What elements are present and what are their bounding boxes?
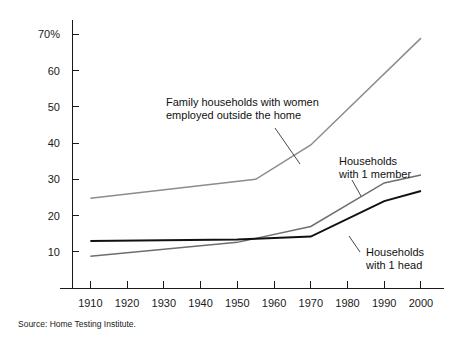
y-tick-label: 60: [48, 65, 60, 77]
series-line: [90, 191, 421, 241]
x-tick-label: 1940: [188, 297, 212, 309]
annotation-one-member: Householdswith 1 member: [338, 155, 411, 180]
y-tick-label: 70%: [38, 28, 60, 40]
x-tick-label: 2000: [409, 297, 433, 309]
annotation-one-head: Householdswith 1 head: [365, 246, 425, 271]
annotation-one-member-leader: [352, 180, 361, 196]
x-axis-ticks: 1910192019301940195019601970198019902000: [78, 281, 433, 309]
y-axis-ticks: 10203040506070%: [38, 28, 79, 257]
line-chart: 10203040506070% 191019201930194019501960…: [0, 0, 472, 341]
x-tick-label: 1950: [225, 297, 249, 309]
chart-canvas: 10203040506070% 191019201930194019501960…: [0, 0, 472, 341]
x-tick-label: 1990: [372, 297, 396, 309]
series-group: [90, 38, 421, 256]
x-tick-label: 1960: [262, 297, 286, 309]
y-tick-label: 10: [48, 246, 60, 258]
y-tick-label: 30: [48, 173, 60, 185]
x-tick-label: 1970: [299, 297, 323, 309]
x-tick-label: 1930: [152, 297, 176, 309]
x-tick-label: 1910: [78, 297, 102, 309]
x-tick-label: 1980: [335, 297, 359, 309]
y-tick-label: 20: [48, 210, 60, 222]
annotation-family-households: Family households with womenemployed out…: [166, 96, 319, 121]
y-tick-label: 40: [48, 137, 60, 149]
x-tick-label: 1920: [115, 297, 139, 309]
series-line: [90, 175, 421, 256]
annotation-one-head-leader: [349, 236, 360, 252]
y-tick-label: 50: [48, 101, 60, 113]
